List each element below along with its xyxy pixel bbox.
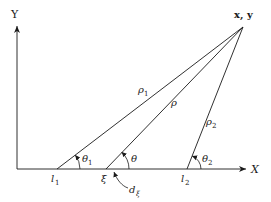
- arc-theta2: [192, 156, 201, 169]
- rho2-label: ρ 2: [205, 116, 216, 130]
- svg-text:l: l: [51, 173, 54, 184]
- svg-text:ξ: ξ: [101, 173, 107, 184]
- l2-label: l 2: [181, 173, 189, 187]
- svg-text:1: 1: [55, 179, 59, 187]
- svg-text:2: 2: [212, 122, 216, 130]
- dxi-pointer: [114, 172, 128, 188]
- y-axis-label: Y: [10, 8, 19, 21]
- apex-label: x, y: [234, 9, 254, 21]
- dxi-label: d ξ: [129, 184, 141, 198]
- svg-text:ρ: ρ: [205, 116, 212, 127]
- svg-text:ρ: ρ: [137, 84, 144, 95]
- theta1-label: θ 1: [82, 153, 92, 167]
- rho-label: ρ: [170, 97, 177, 108]
- svg-text:l: l: [181, 173, 184, 184]
- xi-label: ξ: [101, 173, 107, 184]
- x-axis-label: X: [250, 163, 260, 176]
- rho1-label: ρ 1: [137, 84, 148, 98]
- svg-text:1: 1: [88, 159, 92, 167]
- svg-text:θ: θ: [131, 153, 137, 164]
- svg-text:d: d: [129, 184, 135, 195]
- svg-text:ξ: ξ: [136, 190, 141, 198]
- theta2-label: θ 2: [202, 153, 212, 167]
- theta-label: θ: [131, 153, 137, 164]
- svg-text:ρ: ρ: [170, 97, 177, 108]
- arc-theta1: [75, 155, 80, 169]
- arc-theta: [122, 152, 129, 169]
- svg-text:2: 2: [185, 179, 189, 187]
- diagram-canvas: Y X x, y ρ 1 ρ ρ 2 θ 1 θ θ 2 l 1 ξ l 2 d…: [0, 0, 271, 202]
- svg-text:1: 1: [144, 90, 148, 98]
- svg-text:2: 2: [208, 159, 212, 167]
- l1-label: l 1: [51, 173, 59, 187]
